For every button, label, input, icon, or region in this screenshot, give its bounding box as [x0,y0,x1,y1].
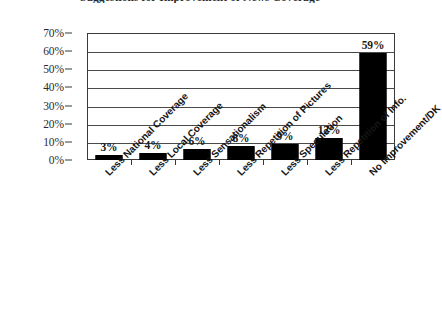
bar-value-label: 3% [101,141,118,153]
y-axis-tick-label: 60% [43,45,64,57]
y-axis-tick-label: 10% [43,136,64,148]
y-axis-tick-label: 40% [43,81,64,93]
y-axis-tick-label: 50% [43,63,64,75]
y-axis-tick-label: 70% [43,27,64,39]
y-axis-tick-label: 20% [43,118,64,130]
y-axis-tick-label: 30% [43,100,64,112]
bar-value-label: 59% [362,39,384,51]
y-axis-tick-mark [65,87,72,88]
y-axis-tick-mark [65,123,72,124]
y-axis-tick-mark [65,105,72,106]
y-axis: 70%60%50%40%30%20%10%0% [0,0,87,170]
y-axis-tick-mark [65,51,72,52]
x-axis-labels: Less National CoverageLess Local Coverag… [0,160,414,320]
y-axis-tick-mark [65,33,72,34]
y-axis-tick-mark [65,69,72,70]
bar-slot[interactable]: 3% [87,33,131,160]
y-axis-tick-mark [65,141,72,142]
